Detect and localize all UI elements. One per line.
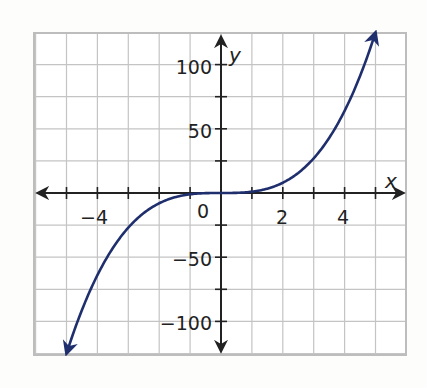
origin-label: 0 <box>197 200 209 222</box>
cubic-graph: x y 0 −4 2 4 100 50 −50 −100 <box>0 0 427 388</box>
y-tick-label-100: 100 <box>176 56 212 78</box>
y-tick-label-50: 50 <box>188 120 212 142</box>
y-tick-label-neg50: −50 <box>172 248 212 270</box>
y-tick-label-neg100: −100 <box>160 312 212 334</box>
x-axis-label: x <box>384 169 397 193</box>
x-tick-label-neg4: −4 <box>80 206 108 228</box>
y-axis-label: y <box>228 43 242 67</box>
x-tick-label-2: 2 <box>276 206 288 228</box>
x-tick-label-4: 4 <box>337 206 349 228</box>
